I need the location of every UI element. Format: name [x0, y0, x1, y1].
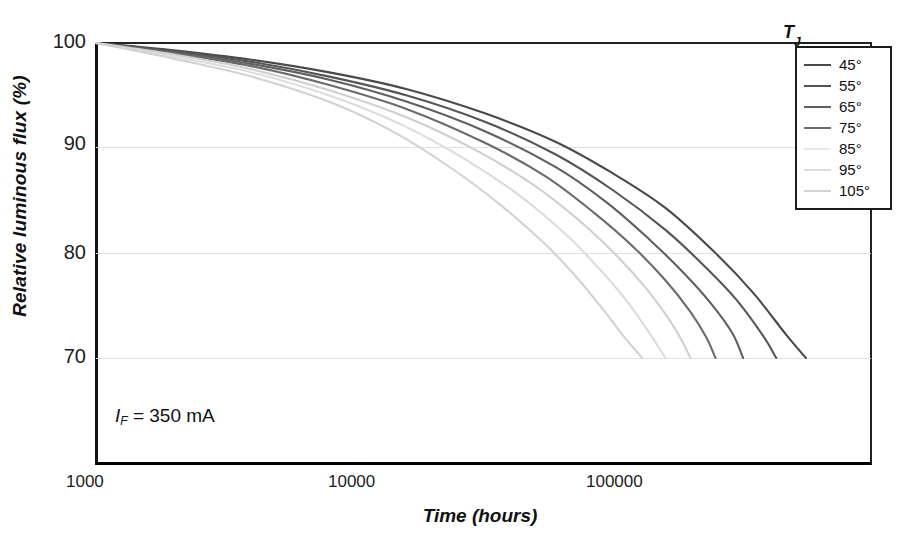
legend-label: 95° [839, 161, 862, 178]
gridline-70 [96, 358, 871, 359]
legend-item-105[interactable]: 105° [797, 180, 890, 201]
legend-label: 105° [839, 182, 870, 199]
y-tick-80: 80 [0, 241, 86, 264]
legend-swatch-icon [804, 85, 831, 87]
current-annotation: IF = 350 mA [115, 405, 215, 427]
chart-canvas: Relative luminous flux (%) 100 90 80 70 … [0, 0, 905, 540]
legend-swatch-icon [804, 127, 831, 129]
legend-label: 55° [839, 77, 862, 94]
legend-swatch-icon [804, 148, 831, 150]
legend-swatch-icon [804, 64, 831, 66]
legend-title-main: T [783, 22, 794, 42]
x-tick-10000: 10000 [328, 472, 375, 492]
gridline-80 [96, 253, 871, 254]
legend-item-95[interactable]: 95° [797, 159, 890, 180]
legend-label: 85° [839, 140, 862, 157]
legend-box: 45°55°65°75°85°95°105° [795, 46, 892, 210]
legend-swatch-icon [804, 106, 831, 108]
legend-swatch-icon [804, 169, 831, 171]
legend-title: TJ [783, 22, 801, 46]
x-axis-title: Time (hours) [330, 505, 630, 527]
legend-label: 75° [839, 119, 862, 136]
y-tick-90: 90 [0, 132, 86, 155]
y-tick-100: 100 [0, 30, 86, 53]
legend-label: 45° [839, 56, 862, 73]
legend-item-55[interactable]: 55° [797, 75, 890, 96]
legend-item-65[interactable]: 65° [797, 96, 890, 117]
annotation-value: = 350 mA [128, 405, 215, 426]
x-tick-100000: 100000 [586, 472, 643, 492]
x-tick-1000: 1000 [66, 472, 104, 492]
y-tick-70: 70 [0, 345, 86, 368]
legend-item-85[interactable]: 85° [797, 138, 890, 159]
legend-swatch-icon [804, 190, 831, 192]
y-axis-title: Relative luminous flux (%) [9, 36, 31, 356]
legend-item-75[interactable]: 75° [797, 117, 890, 138]
legend-item-45[interactable]: 45° [797, 54, 890, 75]
legend-label: 65° [839, 98, 862, 115]
gridline-90 [96, 147, 871, 148]
annotation-subscript: F [120, 414, 127, 428]
